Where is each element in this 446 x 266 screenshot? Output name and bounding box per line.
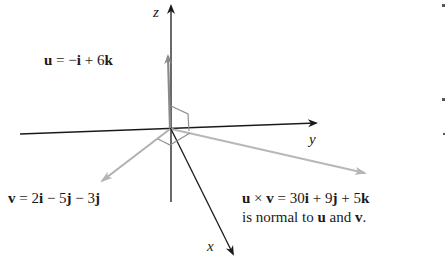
cross-plus2: + 5: [337, 190, 360, 206]
u-k: k: [104, 52, 112, 68]
cross-product-label: u × v = 30i + 9j + 5k: [242, 189, 369, 207]
cropped-text-fragment: [442, 4, 445, 7]
v-eq: = 2: [16, 190, 39, 206]
v-minus2: − 3: [72, 190, 95, 206]
cross-product-caption: is normal to u and v.: [242, 208, 366, 226]
v-j2: j: [95, 190, 100, 206]
vector-v-arrow: [102, 129, 170, 181]
u-eq: = −: [52, 52, 76, 68]
cropped-text-fragment: [443, 133, 445, 135]
u-plus: + 6: [81, 52, 104, 68]
y-axis-line: [20, 123, 316, 134]
vector-v-label: v = 2i − 5j − 3j: [8, 189, 100, 207]
x-axis-line: [171, 129, 233, 254]
v-symbol: v: [8, 190, 16, 206]
cross-eq: = 30: [274, 190, 305, 206]
cross-plus1: + 9: [309, 190, 332, 206]
cross-times: ×: [250, 190, 266, 206]
z-axis-label: z: [153, 3, 159, 21]
vector-u-label: u = −i + 6k: [44, 51, 113, 69]
vector-diagram: [0, 0, 446, 266]
caption-end: .: [362, 209, 366, 225]
caption-prefix: is normal to: [242, 209, 317, 225]
vector-u-arrow: [168, 56, 170, 128]
caption-and: and: [326, 209, 355, 225]
caption-u: u: [317, 209, 325, 225]
x-axis-label: x: [207, 237, 214, 255]
v-minus1: − 5: [43, 190, 66, 206]
vector-cross-arrow: [171, 129, 365, 173]
cross-v: v: [266, 190, 274, 206]
cross-k: k: [361, 190, 369, 206]
y-axis-label: y: [309, 130, 316, 148]
cropped-text-fragment: [442, 98, 445, 101]
